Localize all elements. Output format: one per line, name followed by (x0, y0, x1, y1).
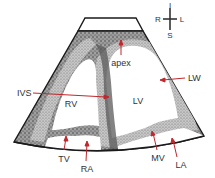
label-ivs: IVS (17, 88, 32, 98)
label-rv: RV (65, 99, 77, 109)
orientation-left: R (155, 15, 161, 24)
orientation-cross: I R L S (155, 1, 185, 40)
orientation-top: I (169, 1, 171, 10)
orientation-right: L (180, 15, 185, 24)
orientation-bottom: S (167, 31, 172, 40)
label-la: LA (175, 160, 186, 170)
echo-diagram: I R L S apex LW IVS RV LV TV RA MV LA (0, 0, 215, 178)
label-lw: LW (188, 73, 201, 83)
label-tv: TV (58, 154, 70, 164)
label-mv: MV (151, 153, 165, 163)
label-lv: LV (133, 96, 143, 106)
transducer-region (78, 18, 143, 31)
label-ra: RA (81, 164, 94, 174)
label-apex: apex (111, 58, 131, 68)
